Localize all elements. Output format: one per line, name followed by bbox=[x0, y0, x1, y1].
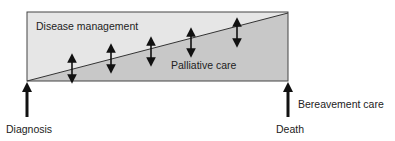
death-arrow-icon bbox=[283, 82, 293, 117]
death-label: Death bbox=[276, 124, 304, 135]
bereavement-care-label: Bereavement care bbox=[298, 99, 384, 110]
palliative-care-label: Palliative care bbox=[171, 60, 236, 71]
diagnosis-arrow-icon bbox=[22, 82, 32, 117]
disease-management-label: Disease management bbox=[36, 21, 138, 32]
diagnosis-label: Diagnosis bbox=[6, 124, 52, 135]
